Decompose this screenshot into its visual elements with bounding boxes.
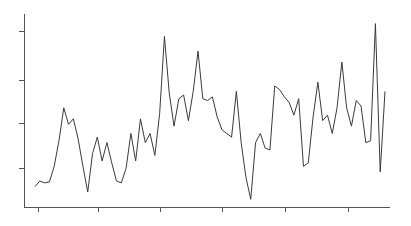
data-series-line bbox=[35, 24, 385, 200]
line-chart bbox=[0, 0, 411, 226]
x-axis-ticks bbox=[38, 207, 348, 212]
y-axis-ticks bbox=[19, 31, 24, 168]
chart-canvas bbox=[0, 0, 411, 226]
